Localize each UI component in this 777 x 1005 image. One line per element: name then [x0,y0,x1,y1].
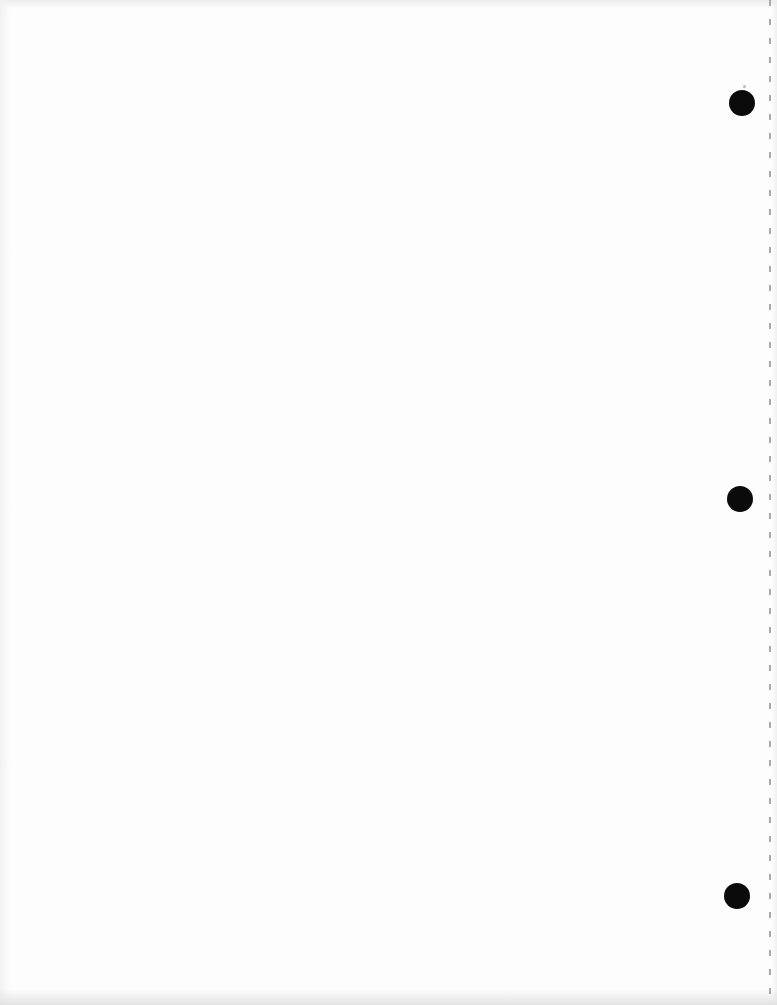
scanned-page [0,0,777,1005]
page-edge-shadow-right [772,0,777,1005]
hole-punch [729,90,755,116]
page-edge-shadow-bottom [0,989,777,1005]
perforation-line [769,0,771,1005]
hole-punch [727,486,753,512]
scan-speck [743,85,746,88]
page-edge-shadow-left [0,0,10,1005]
hole-punch [724,883,750,909]
page-edge-shadow-top [0,0,777,9]
